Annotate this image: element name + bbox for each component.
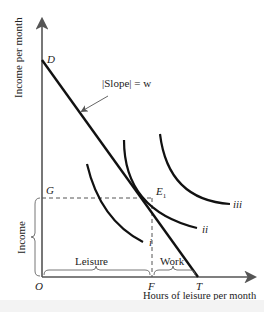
labor-leisure-diagram <box>0 0 264 312</box>
point-e1-label: E1 <box>156 186 166 200</box>
work-brace-label: Work <box>160 256 184 267</box>
curve-i-label: i <box>149 237 152 248</box>
indifference-curve-ii <box>124 140 197 228</box>
curve-iii-label: iii <box>233 199 242 210</box>
slope-annotation: |Slope| = w <box>102 78 151 89</box>
slope-pointer-arrow <box>82 96 108 111</box>
point-g-label: G <box>46 185 54 196</box>
leisure-brace <box>44 266 150 275</box>
indifference-curve-iii <box>160 134 230 204</box>
point-d-label: D <box>47 54 55 65</box>
y-axis-label: Income per month <box>13 17 24 98</box>
point-o-label: O <box>35 281 43 292</box>
budget-line <box>42 60 198 277</box>
income-brace-label: Income <box>16 221 27 254</box>
bottom-strip <box>0 300 264 312</box>
point-f-label: F <box>148 281 155 292</box>
indifference-curve-i <box>87 164 143 242</box>
point-e-subscript: 1 <box>163 192 167 200</box>
leisure-brace-label: Leisure <box>75 256 108 267</box>
point-t-label: T <box>196 281 202 292</box>
income-brace <box>31 198 40 276</box>
point-e-label: E <box>156 185 163 197</box>
curve-ii-label: ii <box>202 224 208 235</box>
work-brace <box>154 266 195 275</box>
